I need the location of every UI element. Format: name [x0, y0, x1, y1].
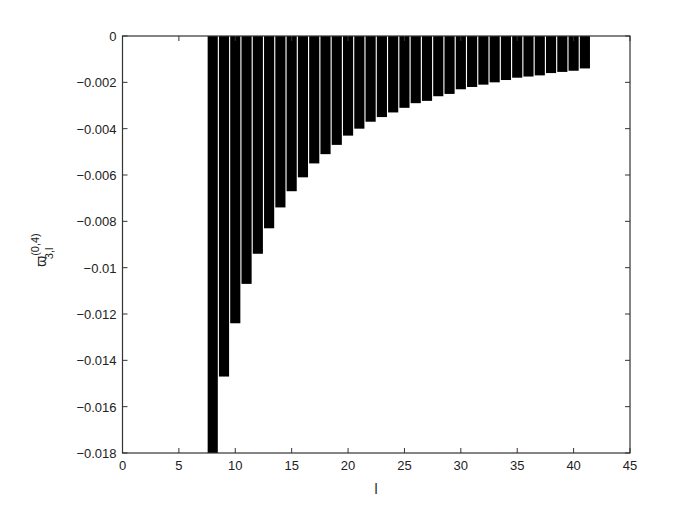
svg-text:ϖ(0,4)3,l: ϖ(0,4)3,l: [29, 233, 55, 267]
x-tick-label: 0: [119, 458, 126, 473]
bar-l-23: [377, 36, 387, 117]
plot-frame: [123, 36, 631, 453]
bar-l-12: [253, 36, 263, 254]
bar-chart: 051015202530354045 0−0.002−0.004−0.006−0…: [0, 0, 673, 515]
x-tick-label: 20: [341, 458, 355, 473]
bar-l-20: [343, 36, 353, 136]
bar-l-8: [208, 36, 218, 453]
bar-l-13: [264, 36, 274, 228]
x-tick-label: 10: [228, 458, 242, 473]
bar-l-18: [320, 36, 330, 154]
y-tick-label: −0.016: [76, 400, 116, 415]
bar-l-31: [467, 36, 477, 87]
y-label-subscript: 3,l: [43, 248, 55, 260]
bar-l-14: [275, 36, 285, 207]
bar-l-29: [444, 36, 454, 94]
bar-l-34: [501, 36, 511, 80]
y-axis-label: ϖ(0,4)3,l: [29, 233, 55, 267]
bar-l-39: [557, 36, 567, 72]
x-tick-label: 45: [623, 458, 637, 473]
bar-l-24: [388, 36, 398, 112]
y-axis-ticks: 0−0.002−0.004−0.006−0.008−0.01−0.012−0.0…: [76, 29, 630, 461]
bar-l-26: [411, 36, 421, 103]
x-tick-label: 40: [566, 458, 580, 473]
x-tick-label: 15: [284, 458, 298, 473]
bar-l-25: [399, 36, 409, 108]
bars-group: [208, 36, 590, 453]
bar-l-10: [230, 36, 240, 323]
bar-l-38: [546, 36, 556, 73]
bar-l-30: [456, 36, 466, 89]
bar-l-37: [535, 36, 545, 75]
x-tick-label: 25: [397, 458, 411, 473]
bar-l-32: [478, 36, 488, 85]
bar-l-19: [332, 36, 342, 145]
bar-l-9: [219, 36, 229, 377]
bar-l-11: [241, 36, 251, 284]
x-tick-label: 5: [175, 458, 182, 473]
x-tick-label: 35: [510, 458, 524, 473]
y-tick-label: −0.002: [76, 75, 116, 90]
y-tick-label: −0.018: [76, 446, 116, 461]
bar-l-41: [580, 36, 590, 68]
y-tick-label: −0.006: [76, 168, 116, 183]
x-axis-label: l: [374, 481, 377, 497]
bar-l-28: [433, 36, 443, 96]
bar-l-17: [309, 36, 319, 163]
bar-l-22: [366, 36, 376, 122]
bar-l-15: [287, 36, 297, 191]
y-label-superscript: (0,4): [29, 233, 41, 256]
bar-l-40: [569, 36, 579, 71]
bar-l-33: [490, 36, 500, 82]
y-tick-label: −0.012: [76, 307, 116, 322]
y-tick-label: 0: [109, 29, 116, 44]
bar-l-27: [422, 36, 432, 101]
bar-l-35: [512, 36, 522, 78]
bar-l-36: [523, 36, 533, 77]
x-tick-label: 30: [454, 458, 468, 473]
y-tick-label: −0.014: [76, 353, 116, 368]
y-tick-label: −0.004: [76, 122, 116, 137]
y-tick-label: −0.01: [84, 261, 117, 276]
bar-l-16: [298, 36, 308, 177]
bar-l-21: [354, 36, 364, 129]
y-tick-label: −0.008: [76, 214, 116, 229]
